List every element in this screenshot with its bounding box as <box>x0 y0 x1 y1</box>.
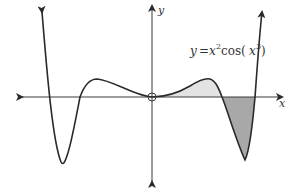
svg-text:=: = <box>199 44 209 58</box>
function-graph: y x y = x 2 cos( x 3 ) <box>0 0 298 192</box>
y-axis-label: y <box>157 4 165 17</box>
x-axis-label: x <box>279 97 286 110</box>
svg-text:cos(: cos( <box>221 44 246 58</box>
svg-text:): ) <box>261 44 266 58</box>
svg-text:x: x <box>249 44 256 58</box>
svg-text:x: x <box>209 44 216 58</box>
function-label: y = x 2 cos( x 3 ) <box>189 42 266 58</box>
svg-text:y: y <box>189 44 197 58</box>
negative-area-shading <box>222 97 255 160</box>
